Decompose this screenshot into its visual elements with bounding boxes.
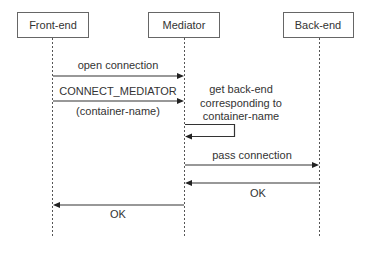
message-sublabel: (container-name) [76,105,160,117]
arrowhead-right-icon [177,98,184,104]
message-label-line-1: get back-end [209,83,273,95]
self-loop-arrow-line [185,125,235,137]
participant-label-frontend: Front-end [29,19,77,31]
message-label: OK [110,208,127,220]
message-label-line-2: corresponding to [200,97,282,109]
message-label: pass connection [212,149,292,161]
message-open-connection: open connection [53,59,184,79]
participant-label-backend: Back-end [295,19,341,31]
participant-label-mediator: Mediator [163,19,206,31]
arrowhead-left-icon [53,202,60,208]
message-connect-mediator: CONNECT_MEDIATOR (container-name) [53,85,184,117]
message-self-get-backend: get back-end corresponding to container-… [185,83,282,140]
message-pass-connection: pass connection [185,149,319,168]
message-label: CONNECT_MEDIATOR [59,85,177,97]
sequence-diagram: Front-end Mediator Back-end open connect… [0,0,367,253]
message-label-line-3: container-name [203,110,279,122]
message-label: open connection [78,59,159,71]
message-label: OK [250,187,267,199]
participant-mediator: Mediator [149,13,220,239]
message-ok-mediator-to-frontend: OK [53,202,184,220]
message-ok-backend-to-mediator: OK [185,180,319,199]
arrowhead-right-icon [177,73,184,79]
arrowhead-left-icon [185,180,192,186]
arrowhead-right-icon [312,162,319,168]
participant-frontend: Front-end [18,13,89,239]
participant-backend: Back-end [284,13,354,239]
arrowhead-left-icon [185,134,192,140]
